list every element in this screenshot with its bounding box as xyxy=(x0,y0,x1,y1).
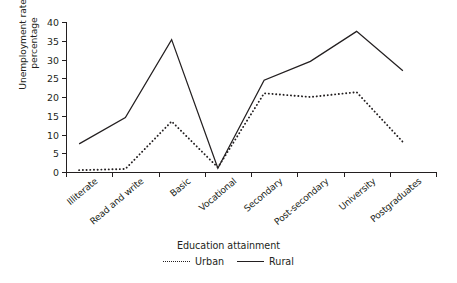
legend-item-urban: Urban xyxy=(163,256,224,267)
chart-figure: Unemployment rate, percentage 0510152025… xyxy=(0,0,457,283)
y-tick-label: 5 xyxy=(19,148,59,159)
series-lines xyxy=(66,22,436,174)
y-tick-label: 20 xyxy=(19,92,59,103)
plot-area: 0510152025303540 xyxy=(66,22,436,174)
legend-swatch-urban-dotted-line xyxy=(163,261,190,262)
legend-swatch-rural-solid-line xyxy=(237,261,264,262)
y-tick-label: 15 xyxy=(19,110,59,121)
x-axis-category-labels: IlliterateRead and writeBasicVocationalS… xyxy=(66,176,457,236)
y-tick-label: 10 xyxy=(19,129,59,140)
y-tick-label: 25 xyxy=(19,73,59,84)
y-tick-label: 30 xyxy=(19,54,59,65)
legend-label-urban: Urban xyxy=(195,256,224,267)
chart-legend: Urban Rural xyxy=(0,256,457,267)
y-tick-label: 35 xyxy=(19,35,59,46)
y-tick-label: 40 xyxy=(19,17,59,28)
x-axis-title: Education attainment xyxy=(0,240,457,251)
y-tick-label: 0 xyxy=(19,167,59,178)
legend-item-rural: Rural xyxy=(237,256,294,267)
legend-label-rural: Rural xyxy=(269,256,294,267)
series-line-rural xyxy=(79,31,403,168)
